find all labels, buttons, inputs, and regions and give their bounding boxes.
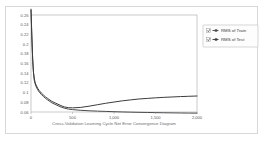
x-axis-tick-labels: 05001,0001,5002,000 — [30, 115, 203, 120]
axis-title: Cross-Validation Learning Cycle Net Erro… — [52, 121, 176, 126]
y-axis-tick-labels: 0.260.240.220.20.180.160.140.120.10.080.… — [21, 13, 30, 115]
x-tick-label: 1,500 — [150, 115, 161, 120]
y-tick-label: 0.22 — [21, 32, 30, 37]
legend-item-label: RMS of Train — [221, 28, 247, 33]
x-tick-label: 0 — [30, 115, 33, 120]
x-tick-label: 500 — [69, 115, 77, 120]
chart-panel: 0.260.240.220.20.180.160.140.120.10.080.… — [5, 6, 258, 134]
y-tick-label: 0.26 — [21, 13, 30, 18]
y-tick-label: 0.24 — [21, 22, 30, 27]
y-tick-label: 0.16 — [21, 61, 30, 66]
legend-item-label: RMS of Test — [221, 37, 245, 42]
y-tick-label: 0.08 — [21, 100, 30, 105]
y-tick-label: 0.1 — [23, 90, 29, 95]
y-tick-label: 0.14 — [21, 71, 30, 76]
chart-legend[interactable]: RMS of TrainRMS of Test — [203, 25, 258, 47]
convergence-chart: 0.260.240.220.20.180.160.140.120.10.080.… — [6, 7, 259, 135]
x-tick-label: 1,000 — [109, 115, 120, 120]
legend-marker-icon — [215, 29, 217, 31]
y-tick-label: 0.12 — [21, 80, 30, 85]
y-tick-label: 0.06 — [21, 110, 30, 115]
y-tick-label: 0.18 — [21, 51, 30, 56]
y-tick-label: 0.2 — [23, 42, 29, 47]
legend-marker-icon — [215, 38, 217, 40]
x-tick-label: 2,000 — [192, 115, 203, 120]
